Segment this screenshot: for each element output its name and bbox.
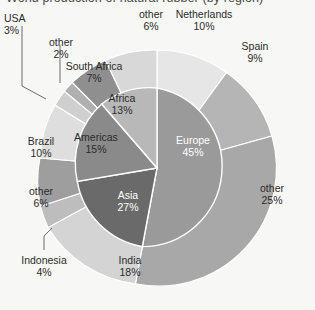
leader-line-usa	[22, 26, 46, 99]
pie-chart-svg	[0, 0, 315, 310]
chart-title: World production of natural rubber (by r…	[6, 0, 309, 5]
chart-canvas: World production of natural rubber (by r…	[0, 0, 315, 310]
